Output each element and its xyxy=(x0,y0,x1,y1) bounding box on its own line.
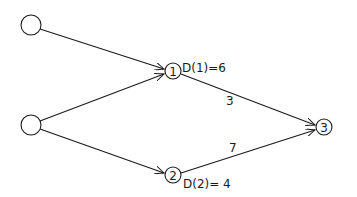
duration-label-2: D(2)= 4 xyxy=(183,177,231,191)
node-1-label: 1 xyxy=(169,65,177,79)
node-source-1 xyxy=(21,15,41,35)
edge-s2-n1 xyxy=(40,74,164,121)
edge-s2-n2 xyxy=(40,129,164,173)
network-diagram: 1 2 3 D(1)=6 D(2)= 4 3 7 xyxy=(0,0,357,197)
node-source-2 xyxy=(21,115,41,135)
edge-n2-n3 xyxy=(181,130,315,173)
node-1: 1 xyxy=(165,63,181,79)
edge-weight-1-3: 3 xyxy=(226,94,234,108)
node-3: 3 xyxy=(316,119,332,135)
edge-n1-n3 xyxy=(181,74,315,125)
duration-label-1: D(1)=6 xyxy=(182,61,226,75)
node-2: 2 xyxy=(165,167,181,183)
edge-s1-n1 xyxy=(40,29,164,69)
edge-weight-2-3: 7 xyxy=(229,141,237,155)
node-3-label: 3 xyxy=(320,121,328,135)
node-2-label: 2 xyxy=(169,169,177,183)
